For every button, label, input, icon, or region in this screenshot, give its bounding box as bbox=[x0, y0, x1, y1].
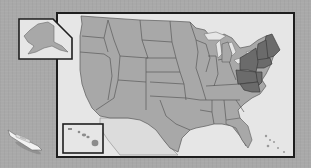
state-pennsylvania bbox=[236, 70, 258, 84]
ship-icon bbox=[8, 130, 42, 156]
us-map bbox=[0, 0, 311, 168]
hawaii-inset bbox=[63, 124, 103, 153]
